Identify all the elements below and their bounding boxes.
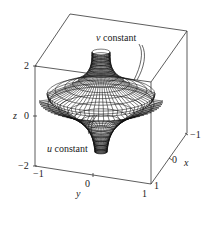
annotation-var: v bbox=[96, 32, 100, 43]
z-axis-label: z bbox=[13, 111, 17, 121]
annotation-text: constant bbox=[103, 32, 136, 43]
x-axis-label: x bbox=[184, 158, 188, 168]
annotation-u-constant: u constant bbox=[47, 144, 88, 154]
z-tick-neg2: −2 bbox=[18, 161, 29, 171]
z-tick-2: 2 bbox=[24, 61, 29, 71]
y-tick-neg1: −1 bbox=[33, 169, 44, 179]
annotation-text: constant bbox=[55, 143, 88, 154]
wireframe-surface bbox=[39, 49, 163, 154]
y-tick-0: 0 bbox=[85, 179, 90, 189]
annotation-v-constant: v constant bbox=[96, 33, 136, 43]
x-tick-1: 1 bbox=[154, 181, 159, 191]
y-tick-1: 1 bbox=[142, 189, 147, 199]
x-tick-neg1: −1 bbox=[190, 130, 201, 140]
y-axis-label: y bbox=[76, 189, 80, 199]
x-tick-0: 0 bbox=[172, 155, 177, 165]
z-tick-0: 0 bbox=[24, 111, 29, 121]
annotation-var: u bbox=[47, 143, 52, 154]
